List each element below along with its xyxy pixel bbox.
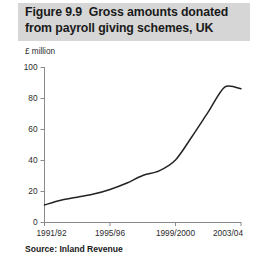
y-axis: 020406080100 [24, 62, 45, 227]
line-chart: 020406080100 1991/921995/961999/20002003… [0, 0, 271, 266]
x-tick-labels: 1991/921995/961999/20002003/04 [37, 228, 244, 238]
x-tick-label: 1991/92 [37, 228, 67, 238]
x-tick-label: 1995/96 [95, 228, 125, 238]
y-tick-label: 20 [28, 186, 38, 196]
x-tick-label: 1999/2000 [156, 228, 196, 238]
x-tick-label: 2003/04 [213, 228, 243, 238]
chart-svg: 020406080100 1991/921995/961999/20002003… [0, 0, 271, 266]
y-tick-label: 40 [28, 155, 38, 165]
y-tick-label: 100 [24, 62, 38, 72]
y-tick-labels: 020406080100 [24, 62, 38, 227]
figure-panel: Figure 9.9 Gross amounts donated from pa… [0, 0, 271, 266]
y-tick-label: 80 [28, 93, 38, 103]
x-axis: 1991/921995/961999/20002003/04 [37, 222, 244, 238]
y-tick-marks [41, 68, 45, 223]
y-tick-label: 0 [33, 217, 38, 227]
source-note: Source: Inland Revenue [25, 244, 123, 254]
data-series-line [45, 86, 242, 205]
y-tick-label: 60 [28, 124, 38, 134]
